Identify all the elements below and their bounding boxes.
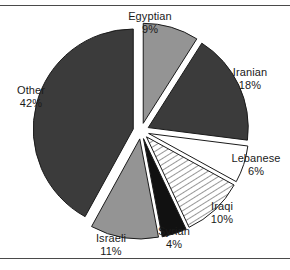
- slice-label-egyptian: Egyptian 9%: [112, 10, 188, 35]
- slice-label-iraqi: Iraqi 10%: [196, 200, 248, 225]
- slice-label-lebanese-name: Lebanese: [231, 152, 280, 164]
- slice-label-syrian-value: 4%: [146, 238, 202, 251]
- slice-label-israeli-name: Israeli: [96, 232, 126, 244]
- slice-label-israeli: Israeli 11%: [84, 232, 138, 257]
- slice-label-lebanese-value: 6%: [222, 165, 290, 178]
- slice-label-syrian-name: Syrian: [158, 225, 190, 237]
- slice-label-iraqi-name: Iraqi: [211, 200, 233, 212]
- slice-label-other-value: 42%: [4, 97, 58, 110]
- pie-chart-canvas: [0, 0, 290, 270]
- slice-label-egyptian-name: Egyptian: [128, 10, 172, 22]
- bottom-rule: [0, 258, 290, 259]
- slice-label-lebanese: Lebanese 6%: [222, 152, 290, 177]
- slice-label-iranian: Iranian 18%: [218, 66, 282, 91]
- slice-label-iranian-name: Iranian: [233, 66, 267, 78]
- slice-label-iraqi-value: 10%: [196, 213, 248, 226]
- slice-label-israeli-value: 11%: [84, 245, 138, 258]
- slice-label-iranian-value: 18%: [218, 79, 282, 92]
- slice-label-other-name: Other: [17, 84, 45, 96]
- slice-label-other: Other 42%: [4, 84, 58, 109]
- slice-label-syrian: Syrian 4%: [146, 225, 202, 250]
- pie-chart-figure: Egyptian 9% Iranian 18% Lebanese 6% Iraq…: [0, 0, 290, 270]
- slice-label-egyptian-value: 9%: [112, 23, 188, 36]
